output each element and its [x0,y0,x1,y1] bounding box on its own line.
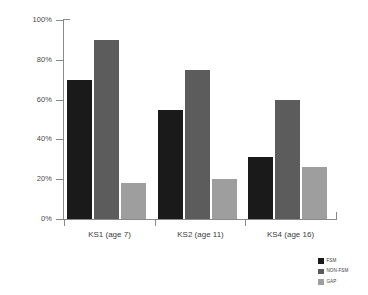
legend-swatch [318,279,324,285]
legend-label: NON-FSM [327,269,349,274]
x-axis-line [63,219,337,220]
legend-item-gap: GAP [318,278,348,286]
y-axis-tick-label: 80% [6,56,52,64]
x-axis-tick [64,220,65,226]
x-axis-category-label: KS4 (age 16) [245,231,336,239]
y-axis-tick [56,139,64,140]
y-axis-tick-label: 100% [6,16,52,24]
y-axis-tick-label: 0% [6,215,52,223]
bar-chart-figure: 0%20%40%60%80%100% KS1 (age 7)KS2 (age 1… [0,0,368,295]
chart-legend: FSMNON-FSMGAP [318,257,348,289]
bar-non-fsm-2 [185,70,210,219]
legend-swatch [318,258,324,264]
legend-item-non-fsm: NON-FSM [318,268,348,276]
bar-gap-1 [121,183,146,219]
plot-area [64,20,336,219]
y-axis-tick-label: 60% [6,96,52,104]
bar-non-fsm-3 [275,100,300,219]
legend-label: FSM [327,259,337,264]
y-axis-tick-label: 20% [6,175,52,183]
y-axis-tick [56,219,64,220]
x-axis-category-label: KS1 (age 7) [64,231,155,239]
y-axis-tick [56,179,64,180]
legend-label: GAP [327,280,337,285]
y-axis-tick [56,100,64,101]
x-axis-tick [245,220,246,226]
y-axis-tick-label: 40% [6,135,52,143]
bar-gap-3 [302,167,327,219]
x-axis-right-cap [336,212,337,220]
bar-fsm-2 [158,110,183,219]
legend-swatch [318,269,324,275]
bar-non-fsm-1 [94,40,119,219]
y-axis-tick [56,20,64,21]
bar-gap-2 [212,179,237,219]
legend-item-fsm: FSM [318,257,348,265]
bar-fsm-3 [248,157,273,219]
bar-fsm-1 [67,80,92,219]
y-axis-tick [56,60,64,61]
x-axis-category-label: KS2 (age 11) [155,231,246,239]
x-axis-tick [155,220,156,226]
